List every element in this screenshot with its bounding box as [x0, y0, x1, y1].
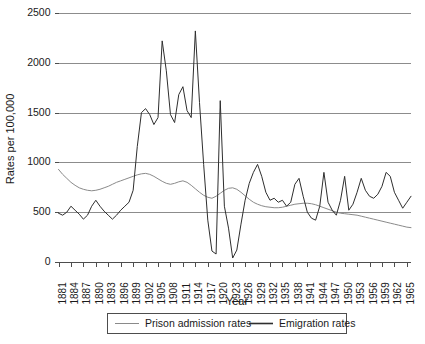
- x-tick-label-1935: 1935: [280, 282, 291, 305]
- legend-label-emigration-rates: Emigration rates: [279, 317, 355, 329]
- x-tick-label-1914: 1914: [193, 282, 204, 305]
- x-tick-label-1896: 1896: [119, 282, 130, 305]
- x-tick-label-1890: 1890: [94, 282, 105, 305]
- gridlines-group: [55, 14, 412, 263]
- y-tick-label-1500: 1500: [27, 106, 51, 118]
- x-tick-label-1929: 1929: [256, 282, 267, 305]
- y-tick-label-0: 0: [45, 255, 51, 267]
- x-tick-label-1932: 1932: [268, 282, 279, 305]
- y-tick-label-2000: 2000: [27, 56, 51, 68]
- y-tick-label-1000: 1000: [27, 155, 51, 167]
- x-tick-label-1956: 1956: [368, 282, 379, 305]
- series-line-emigration-rates: [59, 31, 412, 258]
- y-tick-label-2500: 2500: [27, 6, 51, 18]
- chart-legend: Prison admission rates Emigration rates: [108, 314, 356, 334]
- x-tick-label-1950: 1950: [343, 282, 354, 305]
- y-axis-tick-labels: 05001000150020002500: [27, 6, 51, 267]
- x-tick-label-1965: 1965: [405, 282, 416, 305]
- line-chart-svg: 05001000150020002500 1881188418871890189…: [0, 0, 425, 344]
- x-tick-label-1881: 1881: [57, 282, 68, 305]
- x-tick-label-1938: 1938: [293, 282, 304, 305]
- x-axis-title: Year: [226, 295, 249, 307]
- x-axis-tick-marks: [60, 263, 408, 267]
- x-tick-label-1905: 1905: [156, 282, 167, 305]
- x-tick-label-1941: 1941: [305, 282, 316, 305]
- x-tick-label-1902: 1902: [144, 282, 155, 305]
- x-tick-label-1911: 1911: [181, 283, 192, 305]
- x-tick-label-1884: 1884: [69, 282, 80, 305]
- data-series-group: [59, 31, 412, 258]
- y-tick-label-500: 500: [33, 205, 51, 217]
- x-tick-label-1944: 1944: [318, 282, 329, 305]
- series-line-prison-admission-rates: [59, 169, 412, 227]
- x-tick-label-1959: 1959: [380, 282, 391, 305]
- chart-figure: 05001000150020002500 1881188418871890189…: [0, 0, 425, 344]
- x-tick-label-1953: 1953: [355, 282, 366, 305]
- x-tick-label-1947: 1947: [330, 282, 341, 305]
- x-tick-label-1887: 1887: [81, 282, 92, 305]
- x-tick-label-1893: 1893: [106, 282, 117, 305]
- x-tick-label-1899: 1899: [131, 282, 142, 305]
- x-tick-label-1908: 1908: [168, 282, 179, 305]
- x-tick-label-1962: 1962: [392, 282, 403, 305]
- x-tick-label-1917: 1917: [206, 282, 217, 305]
- y-axis-title: Rates per 100,000: [4, 94, 16, 185]
- legend-label-prison-admission-rates: Prison admission rates: [145, 317, 251, 329]
